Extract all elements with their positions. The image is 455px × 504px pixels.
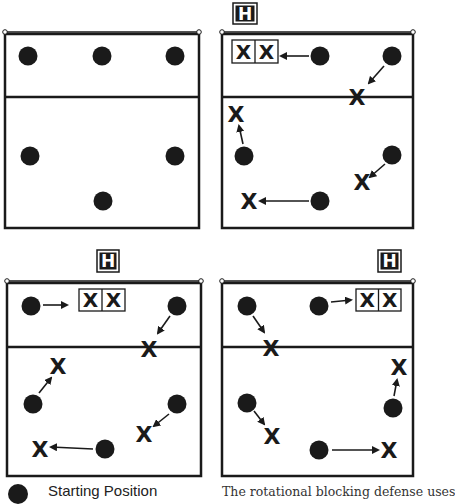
player-starting-position-icon	[21, 147, 40, 166]
blocker-x-icon: X	[264, 424, 281, 449]
movement-arrow-icon	[158, 316, 170, 333]
net-post-icon	[220, 30, 225, 35]
blocker-x-icon: X	[354, 170, 371, 195]
hitter-icon: H	[101, 251, 115, 271]
blocker-x-icon: X	[382, 288, 398, 312]
blocker-x-icon: X	[263, 336, 280, 361]
player-starting-position-icon	[310, 441, 329, 460]
blocker-x-icon: X	[50, 354, 67, 379]
blocker-x-icon: X	[381, 438, 398, 463]
player-starting-position-icon	[384, 399, 403, 418]
player-starting-position-icon	[166, 147, 185, 166]
player-starting-position-icon	[168, 297, 187, 316]
blocker-x-icon: X	[360, 288, 376, 312]
player-starting-position-icon	[310, 297, 329, 316]
movement-arrow-icon	[51, 447, 93, 449]
movement-arrow-icon	[39, 378, 51, 393]
blocker-x-icon: X	[349, 85, 366, 110]
movement-arrow-icon	[154, 414, 169, 426]
movement-arrow-icon	[331, 300, 351, 302]
movement-arrow-icon	[254, 411, 264, 424]
blocker-x-icon: X	[106, 288, 122, 312]
net-post-icon	[411, 279, 416, 284]
blocker-x-icon: X	[136, 422, 153, 447]
player-starting-position-icon	[383, 146, 402, 165]
diagram-top-right: HXXXXXX	[220, 3, 416, 228]
movement-arrow-icon	[239, 126, 243, 144]
net-post-icon	[5, 279, 10, 284]
movement-arrow-icon	[253, 316, 264, 332]
diagram-bottom-left: HXXXXXX	[5, 250, 204, 476]
player-starting-position-icon	[22, 297, 41, 316]
blocker-x-icon: X	[83, 288, 99, 312]
movement-arrow-icon	[370, 164, 385, 177]
player-starting-position-icon	[166, 47, 185, 66]
movement-arrow-icon	[369, 66, 384, 83]
player-starting-position-icon	[235, 147, 254, 166]
net-post-icon	[220, 279, 225, 284]
blocker-x-icon: X	[259, 40, 275, 64]
player-starting-position-icon	[19, 47, 38, 66]
hitter-icon: H	[238, 4, 252, 24]
blocker-x-icon: X	[228, 102, 245, 127]
legend-starting-position-label: Starting Position	[48, 482, 157, 499]
net-post-icon	[197, 30, 202, 35]
player-starting-position-icon	[96, 440, 115, 459]
player-starting-position-icon	[238, 297, 257, 316]
player-starting-position-icon	[383, 47, 402, 66]
player-starting-position-icon	[168, 395, 187, 414]
blocker-x-icon: X	[141, 337, 158, 362]
legend-starting-position-icon	[8, 484, 28, 504]
player-starting-position-icon	[238, 394, 257, 413]
blocker-x-icon: X	[391, 355, 408, 380]
player-starting-position-icon	[24, 395, 43, 414]
blocker-x-icon: X	[241, 189, 258, 214]
diagram-top-left	[3, 30, 202, 228]
player-starting-position-icon	[311, 192, 330, 211]
blocker-x-icon: X	[32, 437, 49, 462]
player-starting-position-icon	[94, 192, 113, 211]
net-post-icon	[411, 30, 416, 35]
blocker-x-icon: X	[236, 40, 252, 64]
hitter-icon: H	[382, 251, 396, 271]
net-post-icon	[199, 279, 204, 284]
diagram-bottom-right: HXXXXXX	[220, 250, 416, 476]
net-post-icon	[3, 30, 8, 35]
caption-text: The rotational blocking defense uses	[222, 484, 455, 499]
player-starting-position-icon	[311, 47, 330, 66]
movement-arrow-icon	[394, 380, 397, 396]
player-starting-position-icon	[93, 47, 112, 66]
